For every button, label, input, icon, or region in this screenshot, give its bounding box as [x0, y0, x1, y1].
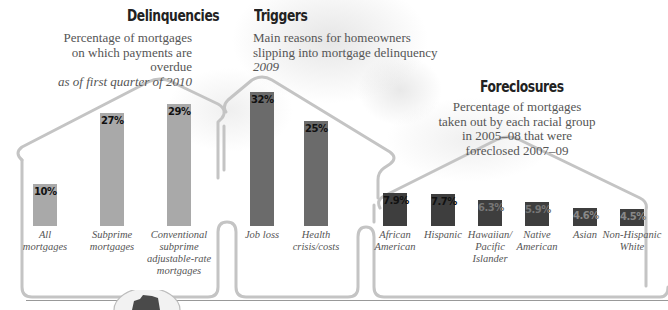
map-emblem-icon — [112, 290, 182, 310]
bar-label-non-hispanic-white: 4.5% — [620, 211, 646, 222]
delinquencies-subtitle-line2: on which payments are overdue — [30, 46, 192, 75]
bar-health-crisis — [304, 121, 328, 226]
delinquencies-title: Delinquencies — [127, 7, 219, 25]
delinquencies-subtitle-italic: as of first quarter of 2010 — [30, 75, 192, 90]
foreclosures-subtitle-line1: Percentage of mortgages — [432, 100, 602, 115]
triggers-subtitle-line2: slipping into mortgage delinquency — [253, 46, 453, 61]
bar-label-native-american: 5.9% — [525, 204, 551, 215]
bar-label-subprime-mortgages: 27% — [101, 115, 123, 126]
bar-label-asian: 4.6% — [573, 210, 599, 221]
category-non-hispanic-white: Non-HispanicWhite — [592, 229, 668, 253]
triggers-title: Triggers — [254, 7, 307, 25]
delinquencies-subtitle: Percentage of mortgages on which payment… — [30, 31, 192, 89]
category-conventional-subprime-arm: Conventionalsubprime adjustable-ratemort… — [139, 229, 219, 277]
delinquencies-subtitle-line1: Percentage of mortgages — [30, 31, 192, 46]
bar-subprime-mortgages — [100, 113, 124, 226]
bar-label-conventional-subprime-arm: 29% — [168, 106, 190, 117]
triggers-subtitle-line1: Main reasons for homeowners — [253, 31, 453, 46]
bar-conventional-subprime-arm — [167, 104, 191, 226]
bar-label-job-loss: 32% — [251, 94, 273, 105]
category-health-crisis: Healthcrisis/costs — [276, 229, 356, 253]
foreclosures-subtitle-line2: taken out by each racial group — [432, 115, 602, 130]
bar-label-health-crisis: 25% — [305, 123, 327, 134]
foreclosures-subtitle-line4: foreclosed 2007–09 — [432, 144, 602, 159]
triggers-subtitle-italic: 2009 — [253, 60, 453, 75]
bar-job-loss — [250, 92, 274, 226]
foreclosures-subtitle: Percentage of mortgages taken out by eac… — [432, 100, 602, 158]
bar-label-african-american: 7.9% — [383, 195, 409, 206]
foreclosures-subtitle-line3: in 2005–08 that were — [432, 129, 602, 144]
foreclosures-title: Foreclosures — [480, 78, 564, 96]
bar-label-hawaiian-pacific-islander: 6.3% — [478, 202, 504, 213]
triggers-subtitle: Main reasons for homeowners slipping int… — [253, 31, 453, 75]
bar-label-hispanic: 7.7% — [431, 196, 457, 207]
bar-label-all-mortgages: 10% — [34, 186, 56, 197]
